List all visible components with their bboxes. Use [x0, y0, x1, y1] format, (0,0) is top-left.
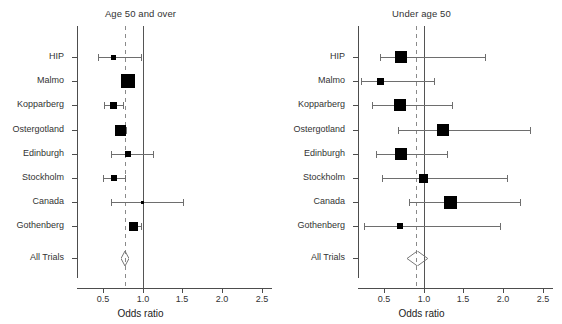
x-axis-tick	[384, 289, 385, 293]
x-axis-tick-label: 2.0	[483, 294, 523, 304]
x-axis-tick-label: 1.0	[404, 294, 444, 304]
confidence-interval-line	[398, 130, 530, 131]
y-axis-tick	[353, 178, 358, 179]
study-label: Stockholm	[265, 172, 345, 182]
confidence-interval-cap-lower	[104, 102, 105, 109]
y-axis-tick	[72, 105, 77, 106]
y-axis-tick	[353, 105, 358, 106]
confidence-interval-cap-upper	[141, 54, 142, 61]
pooled-effect-reference-line	[416, 26, 417, 288]
study-label: HIP	[0, 51, 64, 61]
y-axis-spine	[358, 26, 359, 278]
x-axis-tick	[463, 289, 464, 293]
confidence-interval-cap-lower	[111, 199, 112, 206]
study-label: Malmo	[0, 75, 64, 85]
summary-diamond-marker	[121, 251, 129, 266]
y-axis-tick	[72, 178, 77, 179]
confidence-interval-cap-lower	[398, 127, 399, 134]
x-axis-tick	[424, 289, 425, 293]
study-label: Stockholm	[0, 172, 64, 182]
point-estimate-marker	[419, 174, 428, 183]
confidence-interval-cap-upper	[183, 199, 184, 206]
x-axis-tick	[222, 289, 223, 293]
confidence-interval-cap-lower	[98, 54, 99, 61]
x-axis-line	[77, 288, 272, 289]
x-axis-tick-label: 0.5	[83, 294, 123, 304]
panel-title: Under age 50	[281, 8, 562, 19]
y-axis-tick	[353, 81, 358, 82]
confidence-interval-cap-lower	[361, 78, 362, 85]
study-label: Edinburgh	[0, 148, 64, 158]
y-axis-tick	[353, 130, 358, 131]
y-axis-tick	[72, 154, 77, 155]
panel-age-50-and-over: Age 50 and over 0.51.01.52.02.5Odds rati…	[0, 0, 281, 324]
y-axis-tick	[72, 57, 77, 58]
confidence-interval-cap-lower	[364, 223, 365, 230]
y-axis-tick	[353, 57, 358, 58]
y-axis-spine	[77, 26, 78, 278]
y-axis-tick	[72, 258, 77, 259]
point-estimate-marker	[437, 124, 449, 136]
point-estimate-marker	[115, 125, 126, 136]
confidence-interval-line	[382, 178, 507, 179]
x-axis-tick-label: 1.5	[162, 294, 202, 304]
confidence-interval-cap-upper	[530, 127, 531, 134]
study-label: Kopparberg	[265, 99, 345, 109]
study-label: Gothenberg	[0, 220, 64, 230]
confidence-interval-line	[361, 81, 434, 82]
y-axis-tick	[353, 202, 358, 203]
point-estimate-marker	[121, 74, 135, 88]
study-label: Canada	[265, 196, 345, 206]
confidence-interval-line	[372, 105, 452, 106]
confidence-interval-cap-upper	[434, 78, 435, 85]
confidence-interval-cap-lower	[111, 151, 112, 158]
confidence-interval-cap-upper	[153, 151, 154, 158]
confidence-interval-cap-upper	[452, 102, 453, 109]
point-estimate-marker	[129, 222, 138, 231]
point-estimate-marker	[111, 55, 116, 60]
confidence-interval-cap-lower	[376, 151, 377, 158]
y-axis-tick	[72, 81, 77, 82]
null-effect-reference-line	[424, 26, 425, 288]
point-estimate-marker	[397, 223, 403, 229]
x-axis-tick	[543, 289, 544, 293]
forest-plot-figure: Age 50 and over 0.51.01.52.02.5Odds rati…	[0, 0, 562, 324]
pooled-effect-reference-line	[125, 26, 126, 288]
confidence-interval-line	[376, 154, 447, 155]
study-label: Ostergotland	[265, 124, 345, 134]
study-label: HIP	[265, 51, 345, 61]
confidence-interval-cap-lower	[380, 54, 381, 61]
point-estimate-marker	[111, 175, 117, 181]
confidence-interval-line	[409, 202, 520, 203]
confidence-interval-line	[111, 202, 183, 203]
point-estimate-marker	[125, 151, 131, 157]
x-axis-tick-label: 1.5	[443, 294, 483, 304]
study-label: All Trials	[265, 252, 345, 262]
confidence-interval-cap-lower	[409, 199, 410, 206]
null-effect-reference-line	[143, 26, 144, 288]
point-estimate-marker	[377, 78, 384, 85]
study-label: Malmo	[265, 75, 345, 85]
study-label: Gothenberg	[265, 220, 345, 230]
confidence-interval-cap-upper	[126, 127, 127, 134]
x-axis-tick	[143, 289, 144, 293]
panel-under-age-50: Under age 50 0.51.01.52.02.5Odds ratioHI…	[281, 0, 562, 324]
y-axis-tick	[72, 226, 77, 227]
x-axis-label: Odds ratio	[0, 308, 281, 319]
confidence-interval-cap-lower	[372, 102, 373, 109]
point-estimate-marker	[395, 51, 407, 63]
study-label: Ostergotland	[0, 124, 64, 134]
y-axis-tick	[353, 258, 358, 259]
confidence-interval-line	[98, 57, 141, 58]
point-estimate-marker	[395, 148, 407, 160]
confidence-interval-cap-upper	[507, 175, 508, 182]
point-estimate-marker	[444, 196, 457, 209]
study-label: Edinburgh	[265, 148, 345, 158]
y-axis-tick	[353, 226, 358, 227]
confidence-interval-cap-upper	[520, 199, 521, 206]
point-estimate-marker	[141, 201, 144, 204]
confidence-interval-cap-upper	[485, 54, 486, 61]
confidence-interval-cap-lower	[103, 175, 104, 182]
confidence-interval-cap-lower	[382, 175, 383, 182]
x-axis-line	[358, 288, 553, 289]
